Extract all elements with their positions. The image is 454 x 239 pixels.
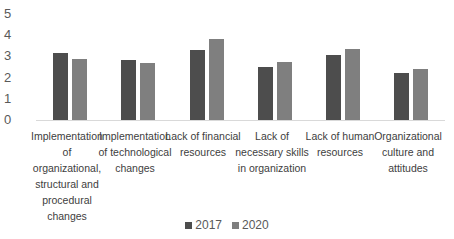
label-line: Organizational bbox=[370, 128, 446, 144]
category-label-2: Implementation of technological changes bbox=[97, 128, 173, 176]
bar-2020-1 bbox=[72, 59, 87, 120]
bar-2017-3 bbox=[190, 50, 205, 120]
label-line: Lack of bbox=[234, 128, 310, 144]
bar-2020-4 bbox=[277, 62, 292, 120]
bar-2017-6 bbox=[394, 73, 409, 120]
legend: 2017 2020 bbox=[0, 218, 454, 232]
bar-2017-2 bbox=[121, 60, 136, 120]
label-line: culture and bbox=[370, 144, 446, 160]
label-line: procedural bbox=[29, 192, 105, 208]
category-label-5: Lack of human resources bbox=[302, 128, 378, 160]
label-line: resources bbox=[302, 144, 378, 160]
label-line: changes bbox=[97, 160, 173, 176]
bar-2020-2 bbox=[140, 63, 155, 120]
bar-2020-3 bbox=[209, 39, 224, 120]
category-label-1: Implementation of organizational, struct… bbox=[29, 128, 105, 224]
bar-2020-5 bbox=[345, 49, 360, 120]
label-line: Implementation bbox=[29, 128, 105, 144]
label-line: organizational, bbox=[29, 160, 105, 176]
category-label-6: Organizational culture and attitudes bbox=[370, 128, 446, 176]
bar-2017-5 bbox=[326, 55, 341, 120]
y-tick-3: 3 bbox=[4, 49, 18, 63]
y-tick-4: 4 bbox=[4, 28, 18, 42]
y-tick-1: 1 bbox=[4, 92, 18, 106]
legend-label-2017: 2017 bbox=[195, 218, 222, 232]
label-line: Implementation bbox=[97, 128, 173, 144]
bar-2017-1 bbox=[53, 53, 68, 120]
x-axis-line bbox=[36, 120, 445, 121]
label-line: of technological bbox=[97, 144, 173, 160]
y-tick-5: 5 bbox=[4, 7, 18, 21]
category-label-3: Lack of financial resources bbox=[165, 128, 241, 160]
label-line: resources bbox=[165, 144, 241, 160]
label-line: in organization bbox=[234, 160, 310, 176]
y-tick-0: 0 bbox=[4, 113, 18, 127]
category-label-4: Lack of necessary skills in organization bbox=[234, 128, 310, 176]
legend-swatch-2017-icon bbox=[185, 222, 192, 229]
label-line: Lack of financial bbox=[165, 128, 241, 144]
label-line: attitudes bbox=[370, 160, 446, 176]
bar-2020-6 bbox=[413, 69, 428, 120]
label-line: necessary skills bbox=[234, 144, 310, 160]
legend-item-2020[interactable]: 2020 bbox=[232, 218, 269, 232]
label-line: Lack of human bbox=[302, 128, 378, 144]
bar-2017-4 bbox=[258, 67, 273, 120]
label-line: of bbox=[29, 144, 105, 160]
legend-item-2017[interactable]: 2017 bbox=[185, 218, 222, 232]
y-tick-2: 2 bbox=[4, 71, 18, 85]
legend-swatch-2020-icon bbox=[232, 222, 239, 229]
bar-chart: 5 4 3 2 1 0 Implementation of organizati… bbox=[0, 0, 454, 239]
legend-label-2020: 2020 bbox=[242, 218, 269, 232]
label-line: structural and bbox=[29, 176, 105, 192]
